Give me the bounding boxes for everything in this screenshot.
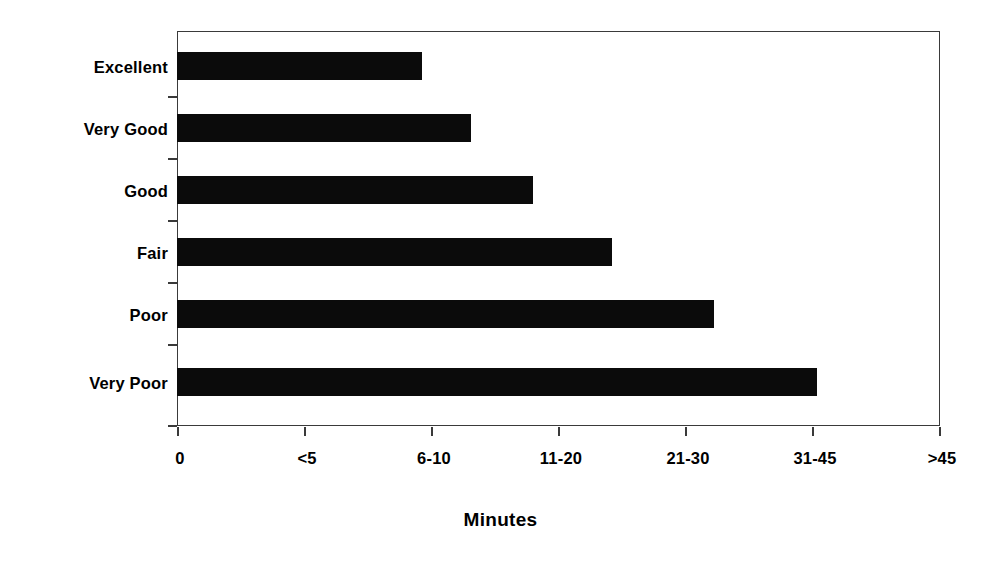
y-axis-tick-4 bbox=[168, 282, 177, 284]
x-axis-tick-3 bbox=[558, 427, 560, 436]
x-axis-label-6: >45 bbox=[928, 449, 957, 468]
x-axis-label-5: 31-45 bbox=[793, 449, 836, 468]
x-axis-tick-5 bbox=[812, 427, 814, 436]
x-axis-label-3: 11-20 bbox=[540, 449, 582, 468]
bar-very-good[interactable] bbox=[177, 114, 471, 142]
bar-excellent[interactable] bbox=[177, 52, 422, 80]
y-axis-labels: Excellent Very Good Good Fair Poor Very … bbox=[0, 31, 168, 426]
bar-fair[interactable] bbox=[177, 238, 612, 266]
y-axis-label-very-poor: Very Poor bbox=[0, 375, 168, 392]
y-axis-label-poor: Poor bbox=[0, 307, 168, 324]
y-axis-tick-5 bbox=[168, 344, 177, 346]
y-axis-tick-2 bbox=[168, 158, 177, 160]
y-axis-label-very-good: Very Good bbox=[0, 121, 168, 138]
x-axis-title: Minutes bbox=[0, 509, 1001, 531]
x-axis-tick-6 bbox=[939, 427, 941, 436]
bar-poor[interactable] bbox=[177, 300, 714, 328]
y-axis-tick-6 bbox=[168, 425, 177, 427]
y-axis-label-fair: Fair bbox=[0, 245, 168, 262]
x-axis-tick-2 bbox=[431, 427, 433, 436]
y-axis-label-excellent: Excellent bbox=[0, 59, 168, 76]
y-axis-tick-3 bbox=[168, 220, 177, 222]
bar-chart: Excellent Very Good Good Fair Poor Very … bbox=[0, 0, 1001, 579]
y-axis-label-good: Good bbox=[0, 183, 168, 200]
x-axis-label-0: 0 bbox=[175, 449, 184, 468]
x-axis-label-1: <5 bbox=[297, 449, 316, 468]
bars-layer bbox=[177, 31, 940, 426]
bar-good[interactable] bbox=[177, 176, 533, 204]
x-axis-label-2: 6-10 bbox=[417, 449, 451, 468]
x-axis-tick-0 bbox=[177, 427, 179, 436]
bar-very-poor[interactable] bbox=[177, 368, 817, 396]
y-axis-tick-1 bbox=[168, 96, 177, 98]
x-axis-label-4: 21-30 bbox=[666, 449, 709, 468]
x-axis-tick-4 bbox=[685, 427, 687, 436]
x-axis-tick-1 bbox=[304, 427, 306, 436]
